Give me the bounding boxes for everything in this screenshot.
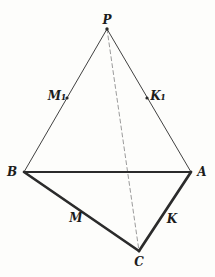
figure-background (0, 0, 215, 277)
point-marker-K1 (145, 96, 148, 99)
point-label-M1: M₁ (47, 89, 67, 103)
tetrahedron-PABC-figure: P B A C M₁ K₁ M K (0, 0, 215, 277)
vertex-label-A: A (196, 165, 206, 179)
vertex-label-B: B (6, 165, 17, 179)
edge-label-M: M (68, 211, 83, 225)
point-label-K1: K₁ (149, 89, 166, 103)
vertex-label-P: P (101, 13, 112, 27)
point-marker-P (105, 27, 108, 30)
vertex-label-C: C (134, 255, 144, 269)
edge-label-K: K (166, 212, 178, 226)
geometry-figure-page: P B A C M₁ K₁ M K (0, 0, 215, 277)
